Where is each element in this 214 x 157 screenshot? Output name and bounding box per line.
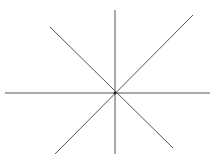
diagonal-line-2 (55, 15, 193, 154)
center-point (114, 92, 117, 95)
diagonal-line-1 (50, 27, 173, 148)
line-diagram (0, 0, 214, 157)
